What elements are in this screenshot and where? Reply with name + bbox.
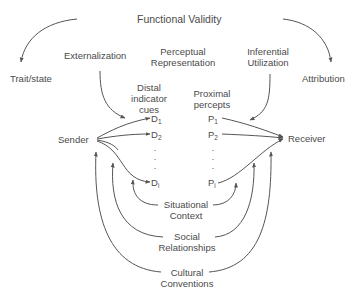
trait-state-label: Trait/state bbox=[10, 73, 52, 84]
situational-context-label: Situational Context bbox=[156, 199, 216, 221]
proximal-ellipsis: ··· bbox=[209, 146, 217, 173]
perceptual-line1: Perceptual bbox=[148, 46, 218, 57]
p2-to-receiver bbox=[222, 134, 283, 138]
pi-to-receiver bbox=[218, 139, 283, 183]
social-to-receiver-side bbox=[215, 163, 254, 237]
distal-cue-d1: D1 bbox=[151, 113, 162, 127]
distal-cue-di: Di bbox=[151, 177, 159, 191]
cultural-line2: Conventions bbox=[155, 278, 219, 289]
inferential-arrow bbox=[250, 74, 270, 120]
functional-validity-label: Functional Validity bbox=[137, 14, 221, 25]
distal-indicator-cues-label: Distal indicator cues bbox=[125, 82, 173, 115]
distal-line1: Distal bbox=[125, 82, 173, 93]
distal-line2: indicator bbox=[125, 93, 173, 104]
proximal-line1: Proximal bbox=[188, 88, 236, 99]
situational-line1: Situational bbox=[156, 199, 216, 210]
externalization-label: Externalization bbox=[64, 50, 126, 61]
inferential-line1: Inferential bbox=[240, 46, 296, 57]
externalization-arrow bbox=[100, 71, 125, 118]
cultural-to-receiver bbox=[209, 152, 271, 272]
perceptual-representation-label: Perceptual Representation bbox=[148, 46, 218, 68]
cultural-conventions-label: Cultural Conventions bbox=[155, 267, 219, 289]
distal-ellipsis: ··· bbox=[151, 146, 159, 173]
social-line2: Relationships bbox=[152, 242, 222, 253]
cultural-line1: Cultural bbox=[155, 267, 219, 278]
inferential-line2: Utilization bbox=[240, 57, 296, 68]
social-line1: Social bbox=[152, 231, 222, 242]
proximal-percepts-label: Proximal percepts bbox=[188, 88, 236, 110]
sender-node: Sender bbox=[58, 134, 89, 145]
proximal-percept-p2: P2 bbox=[208, 129, 218, 143]
inferential-utilization-label: Inferential Utilization bbox=[240, 46, 296, 68]
sender-to-di bbox=[97, 141, 150, 182]
perceptual-line2: Representation bbox=[148, 57, 218, 68]
sender-branch bbox=[97, 140, 118, 150]
proximal-percept-pi: Pi bbox=[208, 177, 216, 191]
proximal-line2: percepts bbox=[188, 99, 236, 110]
situational-line2: Context bbox=[156, 210, 216, 221]
situational-to-receiver-side bbox=[213, 183, 236, 205]
sender-to-d2 bbox=[97, 134, 150, 139]
receiver-node: Receiver bbox=[288, 133, 326, 144]
distal-line3: cues bbox=[125, 104, 173, 115]
proximal-percept-p1: P1 bbox=[208, 113, 218, 127]
social-relationships-label: Social Relationships bbox=[152, 231, 222, 253]
attribution-label: Attribution bbox=[302, 73, 345, 84]
distal-cue-d2: D2 bbox=[151, 129, 162, 143]
